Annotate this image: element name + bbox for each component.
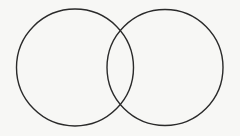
circle-set-a [17, 9, 134, 126]
circle-set-b [107, 10, 223, 126]
venn-diagram [0, 0, 240, 136]
venn-diagram-canvas [0, 0, 240, 136]
